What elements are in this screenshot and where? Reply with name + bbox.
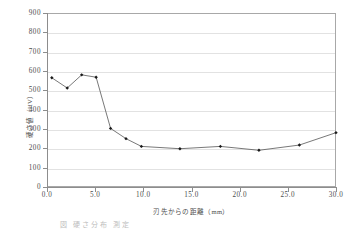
data-point xyxy=(219,145,222,148)
data-point xyxy=(257,149,260,152)
data-point xyxy=(298,143,301,146)
data-point xyxy=(140,145,143,148)
hardness-profile-figure: 900 800 700 600 500 400 300 200 100 0 0.… xyxy=(0,0,352,229)
data-point xyxy=(334,131,337,134)
data-point xyxy=(178,147,181,150)
data-point xyxy=(94,75,97,78)
series-line xyxy=(52,75,336,150)
caption-text: 図 硬さ分布 測定 xyxy=(60,220,131,229)
caption-sliver: 図 硬さ分布 測定 xyxy=(0,220,352,229)
series-markers xyxy=(50,73,338,152)
data-series-layer xyxy=(0,0,352,229)
